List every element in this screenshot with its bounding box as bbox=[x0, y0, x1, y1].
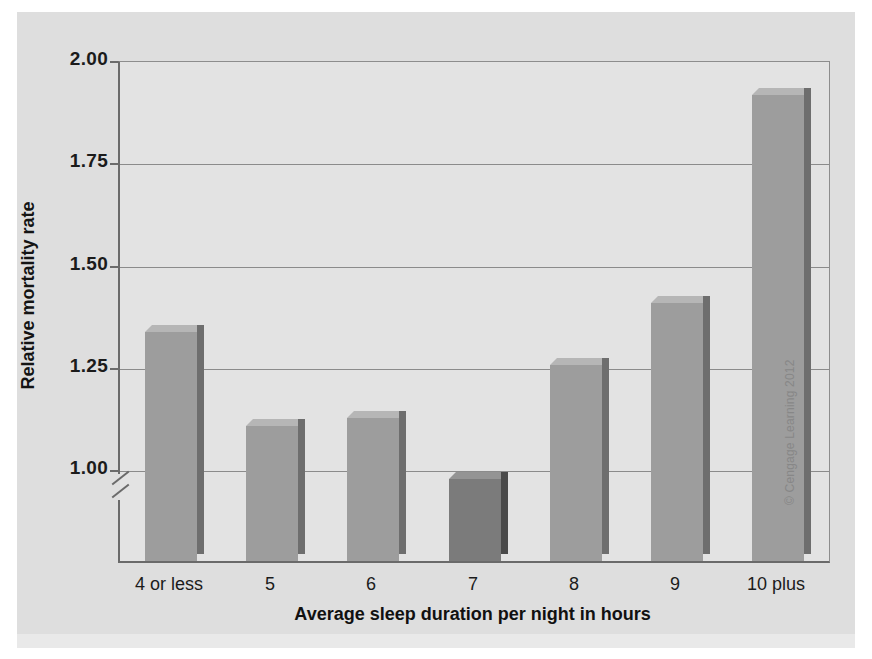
gridline bbox=[120, 267, 829, 268]
y-tick-mark bbox=[110, 61, 118, 63]
y-axis-title: Relative mortality rate bbox=[18, 116, 39, 476]
gridline bbox=[120, 164, 829, 165]
y-tick-label: 2.00 bbox=[70, 48, 108, 70]
bar-5[interactable] bbox=[246, 426, 298, 561]
bar-9[interactable] bbox=[651, 303, 703, 561]
bar-side-face bbox=[703, 296, 710, 554]
x-tick-label: 5 bbox=[265, 574, 275, 595]
bar-top-face bbox=[145, 325, 204, 332]
y-tick-label: 1.50 bbox=[70, 253, 108, 275]
bar-side-face bbox=[399, 411, 406, 554]
bar-8[interactable] bbox=[550, 365, 602, 561]
bar-top-face bbox=[752, 88, 811, 95]
y-tick-mark bbox=[110, 163, 118, 165]
bar-top-face bbox=[347, 411, 406, 418]
gridline bbox=[120, 369, 829, 370]
bar-7[interactable] bbox=[449, 479, 501, 561]
bar-top-face bbox=[550, 358, 609, 365]
axis-break-icon bbox=[108, 468, 132, 504]
y-tick-label: 1.25 bbox=[70, 355, 108, 377]
caption-strip bbox=[17, 634, 855, 648]
bar-top-face bbox=[449, 472, 508, 479]
gridline bbox=[120, 62, 829, 63]
x-axis-tick-labels: 4 or less5678910 plus bbox=[118, 574, 827, 600]
attribution-text: © Cengage Learning 2012 bbox=[783, 345, 797, 505]
bar-6[interactable] bbox=[347, 418, 399, 561]
bar-top-face bbox=[246, 419, 305, 426]
y-tick-mark bbox=[110, 266, 118, 268]
bar-side-face bbox=[197, 325, 204, 554]
bar-4-or-less[interactable] bbox=[145, 332, 197, 561]
y-tick-mark bbox=[110, 368, 118, 370]
y-tick-label: 1.75 bbox=[70, 150, 108, 172]
x-tick-label: 9 bbox=[670, 574, 680, 595]
x-tick-label: 6 bbox=[366, 574, 376, 595]
y-tick-mark bbox=[110, 470, 118, 472]
figure-root: 2.001.751.501.251.00 Relative mortality … bbox=[0, 0, 872, 659]
y-tick-label: 1.00 bbox=[70, 457, 108, 479]
x-tick-label: 10 plus bbox=[747, 574, 805, 595]
bar-side-face bbox=[501, 472, 508, 554]
x-tick-label: 8 bbox=[569, 574, 579, 595]
bar-side-face bbox=[804, 88, 811, 554]
bar-top-face bbox=[651, 296, 710, 303]
bar-side-face bbox=[602, 358, 609, 554]
bar-side-face bbox=[298, 419, 305, 554]
x-axis-title: Average sleep duration per night in hour… bbox=[118, 604, 827, 625]
plot-area bbox=[118, 61, 830, 563]
x-tick-label: 7 bbox=[468, 574, 478, 595]
x-tick-label: 4 or less bbox=[135, 574, 203, 595]
